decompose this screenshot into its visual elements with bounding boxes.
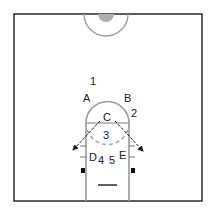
court-boundary: [14, 14, 202, 201]
position-label-2: 2: [131, 107, 137, 119]
block-mark-left: [81, 168, 85, 173]
half-court-diagram: 1 A B 2 C 3 D 4 5 E: [0, 0, 213, 211]
position-label-c: C: [103, 111, 111, 123]
position-label-4: 4: [98, 154, 104, 166]
position-label-b: B: [124, 92, 131, 104]
position-label-d: D: [89, 151, 97, 163]
position-label-5: 5: [109, 154, 115, 166]
center-dot: [98, 14, 114, 22]
position-label-a: A: [83, 92, 91, 104]
block-mark-right: [131, 168, 135, 173]
position-label-3: 3: [103, 129, 109, 141]
position-label-1: 1: [90, 75, 96, 87]
position-label-e: E: [119, 149, 126, 161]
